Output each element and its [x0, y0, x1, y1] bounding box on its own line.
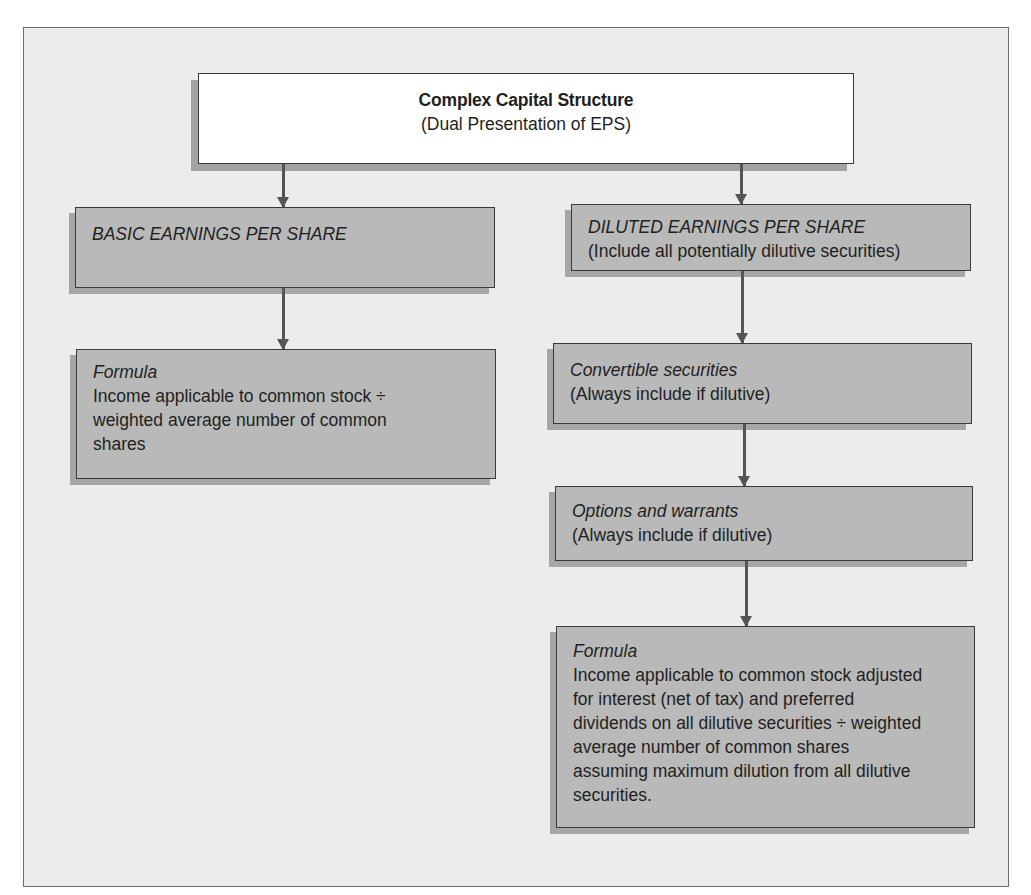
- diluted-formula-text: Income applicable to common stock adjust…: [573, 663, 928, 807]
- diluted-eps-heading: DILUTED EARNINGS PER SHARE: [588, 215, 954, 239]
- arrow-down-icon: [282, 164, 285, 207]
- diluted-formula-box: Formula Income applicable to common stoc…: [556, 626, 975, 828]
- options-label: Options and warrants: [572, 499, 956, 523]
- basic-eps-box: BASIC EARNINGS PER SHARE: [75, 207, 495, 288]
- basic-formula-text: Income applicable to common stock ÷ weig…: [93, 384, 425, 456]
- diagram-title: Complex Capital Structure: [215, 88, 837, 112]
- diluted-formula-label: Formula: [573, 639, 928, 663]
- basic-formula-box: Formula Income applicable to common stoc…: [76, 349, 496, 479]
- arrow-down-icon: [743, 424, 746, 486]
- options-warrants-box: Options and warrants (Always include if …: [555, 486, 973, 561]
- diagram-subtitle: (Dual Presentation of EPS): [215, 112, 837, 136]
- convertible-securities-box: Convertible securities (Always include i…: [553, 343, 972, 424]
- diluted-eps-note: (Include all potentially dilutive securi…: [588, 239, 954, 263]
- convertible-note: (Always include if dilutive): [570, 382, 955, 406]
- title-box: Complex Capital Structure (Dual Presenta…: [198, 73, 854, 164]
- arrow-down-icon: [745, 561, 748, 626]
- basic-eps-heading: BASIC EARNINGS PER SHARE: [92, 222, 478, 246]
- options-note: (Always include if dilutive): [572, 523, 956, 547]
- convertible-label: Convertible securities: [570, 358, 955, 382]
- arrow-down-icon: [282, 288, 285, 349]
- diluted-eps-box: DILUTED EARNINGS PER SHARE (Include all …: [571, 204, 971, 271]
- basic-formula-label: Formula: [93, 360, 425, 384]
- arrow-down-icon: [741, 271, 744, 343]
- arrow-down-icon: [740, 164, 743, 204]
